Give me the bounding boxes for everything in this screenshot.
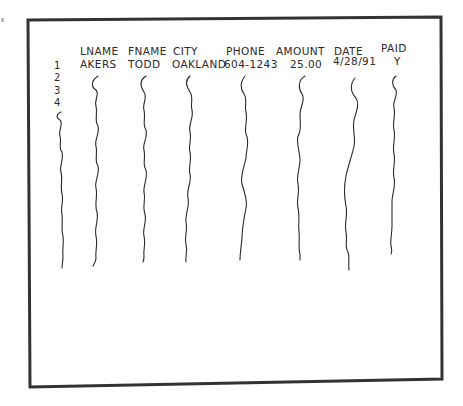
header-paid: PAID xyxy=(381,42,407,55)
cell-date: 4/28/91 xyxy=(333,55,376,68)
header-amount: AMOUNT xyxy=(276,45,325,58)
squiggle-date xyxy=(345,78,358,270)
row-number-4: 4 xyxy=(54,97,61,109)
header-city: CITY xyxy=(173,45,198,58)
row-number-3: 3 xyxy=(54,85,61,97)
squiggle-fname xyxy=(141,76,146,262)
cell-amount: 25.00 xyxy=(290,58,322,71)
frame-border xyxy=(28,17,442,387)
row-number-1: 1 xyxy=(54,60,61,72)
squiggle-phone xyxy=(240,76,248,260)
sketch-canvas: LNAME FNAME CITY PHONE AMOUNT DATE PAID … xyxy=(0,0,463,406)
row-number-2: 2 xyxy=(54,72,61,84)
cell-city: OAKLAND xyxy=(172,58,226,71)
cell-lname: AKERS xyxy=(80,58,117,71)
cell-fname: TODD xyxy=(128,58,160,71)
cell-paid: Y xyxy=(394,55,401,68)
squiggle-city xyxy=(185,76,192,262)
cell-phone: 604-1243 xyxy=(224,58,278,71)
squiggle-amount xyxy=(297,76,305,260)
squiggle-rownum xyxy=(57,112,63,268)
squiggle-lname xyxy=(92,76,98,266)
header-lname: LNAME xyxy=(80,45,119,58)
squiggle-paid xyxy=(391,76,397,254)
header-fname: FNAME xyxy=(128,45,167,58)
header-phone: PHONE xyxy=(226,45,265,58)
